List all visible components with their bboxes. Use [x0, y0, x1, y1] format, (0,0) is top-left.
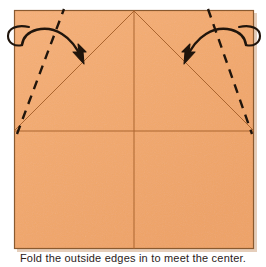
figure-caption: Fold the outside edges in to meet the ce…: [0, 253, 266, 267]
origami-figure: Fold the outside edges in to meet the ce…: [0, 0, 266, 267]
fold-diagram: [0, 0, 266, 267]
figure-caption-text: Fold the outside edges in to meet the ce…: [0, 253, 266, 265]
